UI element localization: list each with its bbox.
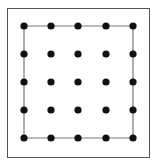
grid-dot	[74, 50, 81, 57]
grid-dot	[102, 134, 109, 141]
grid-dot	[102, 78, 109, 85]
grid-dot	[20, 50, 27, 57]
grid-dot	[74, 22, 81, 29]
grid-dot	[47, 134, 54, 141]
grid-dot	[129, 78, 136, 85]
grid-dot	[47, 78, 54, 85]
grid-dot	[47, 50, 54, 57]
grid-dot	[102, 106, 109, 113]
grid-dot	[102, 22, 109, 29]
grid-dot	[20, 134, 27, 141]
grid-dot	[74, 106, 81, 113]
dot-grid-diagram	[0, 0, 155, 161]
grid-dot	[47, 22, 54, 29]
grid-dot	[20, 78, 27, 85]
grid-dot	[129, 106, 136, 113]
grid-dot	[74, 78, 81, 85]
dot-grid	[20, 22, 136, 141]
grid-dot	[129, 50, 136, 57]
grid-dot	[102, 50, 109, 57]
grid-dot	[129, 22, 136, 29]
grid-dot	[47, 106, 54, 113]
grid-dot	[74, 134, 81, 141]
grid-dot	[20, 22, 27, 29]
grid-dot	[20, 106, 27, 113]
grid-dot	[129, 134, 136, 141]
